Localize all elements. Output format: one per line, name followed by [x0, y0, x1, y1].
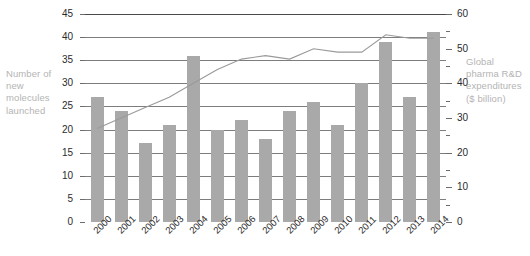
left-tick-label: 40 — [51, 32, 73, 42]
right-minor-tickmark — [446, 31, 450, 32]
right-tick-label: 10 — [457, 182, 479, 192]
left-tick-label: 5 — [51, 194, 73, 204]
left-tickmark — [80, 222, 85, 223]
right-tickmark — [446, 118, 452, 119]
right-tickmark — [446, 187, 452, 188]
left-tick-label: 30 — [51, 78, 73, 88]
left-tick-label: 0 — [51, 217, 73, 227]
right-minor-tickmark — [446, 170, 450, 171]
right-tickmark — [446, 14, 452, 15]
left-tick-label: 35 — [51, 55, 73, 65]
right-tick-label: 50 — [457, 44, 479, 54]
rd-expenditure-line — [97, 35, 434, 129]
line-series-group — [85, 14, 446, 222]
left-tick-label: 15 — [51, 148, 73, 158]
right-tickmark — [446, 49, 452, 50]
right-tickmark — [446, 153, 452, 154]
right-tickmark — [446, 83, 452, 84]
left-tick-label: 20 — [51, 125, 73, 135]
right-tick-label: 0 — [457, 217, 479, 227]
right-minor-tickmark — [446, 66, 450, 67]
right-minor-tickmark — [446, 135, 450, 136]
x-axis-baseline — [85, 14, 446, 15]
right-minor-tickmark — [446, 101, 450, 102]
left-tick-label: 25 — [51, 101, 73, 111]
right-tick-label: 60 — [457, 9, 479, 19]
right-tick-label: 30 — [457, 113, 479, 123]
right-tick-label: 40 — [457, 78, 479, 88]
left-tick-label: 10 — [51, 171, 73, 181]
right-tick-label: 20 — [457, 148, 479, 158]
plot-area — [85, 14, 446, 222]
left-tick-label: 45 — [51, 9, 73, 19]
right-minor-tickmark — [446, 205, 450, 206]
chart-container: Number of new molecules launched Global … — [0, 0, 530, 256]
